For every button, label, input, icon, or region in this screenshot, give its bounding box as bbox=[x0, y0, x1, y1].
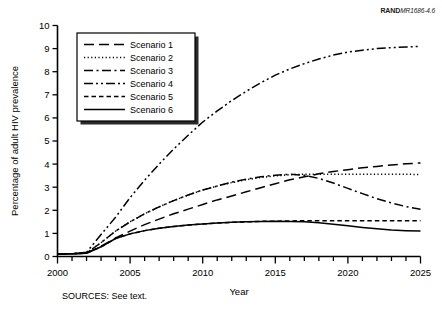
x-axis-tick-label: 2020 bbox=[337, 267, 358, 278]
y-axis-title: Percentage of adult HIV prevalence bbox=[9, 66, 20, 216]
x-axis-tick-label: 2010 bbox=[192, 267, 213, 278]
x-axis-tick-label: 2025 bbox=[410, 267, 431, 278]
legend-label-2: Scenario 2 bbox=[130, 53, 173, 63]
x-axis-tick-label: 2000 bbox=[47, 267, 68, 278]
y-axis-tick-label: 5 bbox=[44, 135, 49, 146]
y-axis-tick-label: 3 bbox=[44, 182, 49, 193]
legend-label-5: Scenario 5 bbox=[130, 92, 173, 102]
legend-label-1: Scenario 1 bbox=[130, 40, 173, 50]
series-line-5 bbox=[58, 221, 421, 255]
y-axis-tick-label: 8 bbox=[44, 66, 49, 77]
series-line-2 bbox=[58, 174, 421, 254]
legend-label-4: Scenario 4 bbox=[130, 79, 173, 89]
y-axis-tick-label: 2 bbox=[44, 205, 49, 216]
y-axis-tick-label: 7 bbox=[44, 89, 49, 100]
source-note: SOURCES: See text. bbox=[62, 291, 147, 301]
y-axis-tick-label: 9 bbox=[44, 43, 49, 54]
x-axis-title: Year bbox=[229, 286, 248, 297]
series-line-6 bbox=[58, 221, 421, 254]
y-axis-tick-label: 4 bbox=[44, 159, 49, 170]
y-axis-tick-label: 0 bbox=[44, 251, 49, 262]
legend-label-6: Scenario 6 bbox=[130, 105, 173, 115]
y-axis-tick-label: 1 bbox=[44, 228, 49, 239]
line-chart: 012345678910200020052010201520202025Year… bbox=[0, 0, 442, 313]
y-axis-tick-label: 6 bbox=[44, 112, 49, 123]
figure-container: RANDMR1686-4.6 0123456789102000200520102… bbox=[0, 0, 442, 313]
x-axis-tick-label: 2015 bbox=[265, 267, 286, 278]
x-axis-tick-label: 2005 bbox=[120, 267, 141, 278]
legend-label-3: Scenario 3 bbox=[130, 66, 173, 76]
y-axis-tick-label: 10 bbox=[39, 20, 50, 31]
series-line-3 bbox=[58, 174, 421, 254]
